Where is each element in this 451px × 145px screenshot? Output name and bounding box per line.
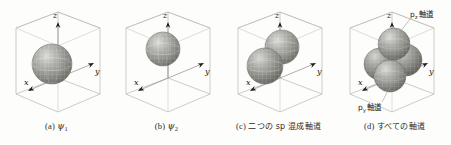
y-axis-label: y [428, 67, 434, 76]
x-axis-label: x [358, 78, 363, 87]
panel-c-caption: (c) 二つの sp 混成軸道 [222, 120, 335, 133]
panel-b-plot: z y x [110, 2, 223, 120]
py-orbital-label-suffix: 軸道 [367, 102, 382, 112]
panel-d: z y x [338, 0, 451, 145]
pz-orbital-label-subscript: z [415, 14, 418, 20]
panel-b-caption: (b) ψ2 [110, 120, 223, 133]
x-axis-label: x [24, 78, 29, 87]
panel-b-caption-index: (b) [155, 121, 166, 131]
orbital-figure: z y x (a) ψ1 [0, 0, 451, 145]
panel-a-caption: (a) ψ1 [0, 120, 113, 133]
y-axis-label: y [94, 67, 100, 76]
panel-c-caption-text: 二つの sp 混成軸道 [248, 122, 321, 131]
panel-d-caption-index: (d) [364, 121, 375, 131]
y-axis-label: y [316, 67, 322, 76]
py-orbital-label-subscript: y [363, 107, 366, 114]
panel-b-caption-subscript: 2 [175, 125, 178, 132]
panel-d-caption: (d) すべての軸道 [338, 120, 451, 133]
x-axis-label: x [134, 78, 139, 87]
py-orbital-label-group: p y 軸道 [358, 102, 382, 114]
z-axis-label: z [274, 11, 280, 20]
orbital-sphere-group [247, 30, 299, 84]
panel-a: z y x (a) ψ1 [0, 0, 113, 145]
panel-c: z y x (c) 二つの sp 混成軸道 [222, 0, 335, 145]
z-axis-label: z [386, 11, 392, 20]
panel-a-caption-index: (a) [45, 121, 55, 131]
z-axis-label: z [52, 11, 58, 20]
y-axis-label: y [204, 67, 210, 76]
pz-orbital-label-suffix: 軸道 [419, 9, 434, 19]
pz-orbital-label-group: p z 軸道 [410, 9, 434, 20]
panel-d-plot: z y x [338, 2, 451, 120]
z-axis-label: z [162, 11, 168, 20]
panel-a-caption-subscript: 1 [65, 125, 68, 132]
panel-b: z y x (b) ψ2 [110, 0, 223, 145]
orbital-sphere-group [146, 32, 180, 66]
panel-d-caption-text: すべての軸道 [377, 122, 425, 131]
panel-b-caption-symbol: ψ [168, 121, 175, 131]
orbital-sphere-group [32, 44, 72, 84]
panel-c-plot: z y x [222, 2, 335, 120]
panel-a-plot: z y x [0, 2, 113, 120]
x-axis-label: x [246, 78, 251, 87]
panel-c-caption-index: (c) [236, 121, 246, 131]
panel-a-caption-symbol: ψ [57, 121, 64, 131]
